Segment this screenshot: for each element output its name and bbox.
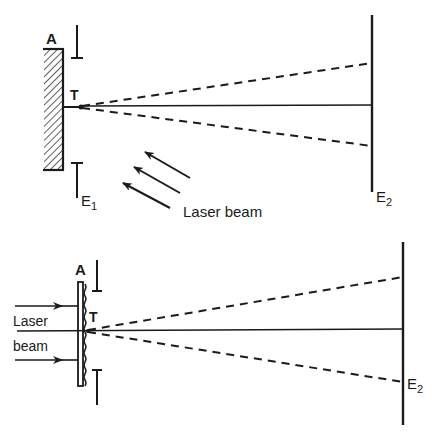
laser-arrow-2: [134, 167, 180, 193]
top-panel: A E1 T E2: [43, 15, 392, 220]
aperture-upper-stop-bottom: [92, 260, 102, 291]
label-screen-e2: E2: [376, 188, 392, 208]
label-aperture-a: A: [46, 30, 57, 47]
diagram-canvas: A E1 T E2: [0, 0, 445, 441]
label-screen-e2-bottom: E2: [407, 375, 423, 395]
label-laser: Laser: [13, 313, 48, 329]
label-point-t-bottom: T: [89, 309, 98, 325]
laser-arrow-1: [145, 152, 190, 178]
corrugated-plate: [78, 282, 86, 386]
label-point-t: T: [70, 87, 79, 103]
laser-arrow-3: [123, 183, 170, 208]
aperture-upper-stop: [71, 25, 83, 58]
ray-central-solid-bottom: [17, 329, 403, 331]
aperture-lower-stop-bottom: [92, 370, 102, 405]
label-beam: beam: [13, 338, 48, 354]
bottom-panel: A Laser beam T: [13, 242, 423, 425]
ray-lower-dashed: [82, 108, 372, 146]
label-aperture-a-bottom: A: [75, 261, 86, 278]
hatched-plate: [43, 49, 64, 170]
label-screen-e1: E1: [81, 192, 97, 212]
ray-central-solid: [82, 105, 372, 106]
laser-beam-arrows: [123, 152, 190, 208]
ray-upper-dashed-bottom: [88, 277, 403, 330]
ray-upper-dashed: [82, 63, 372, 106]
ray-lower-dashed-bottom: [88, 332, 403, 382]
label-laser-beam: Laser beam: [183, 203, 262, 220]
